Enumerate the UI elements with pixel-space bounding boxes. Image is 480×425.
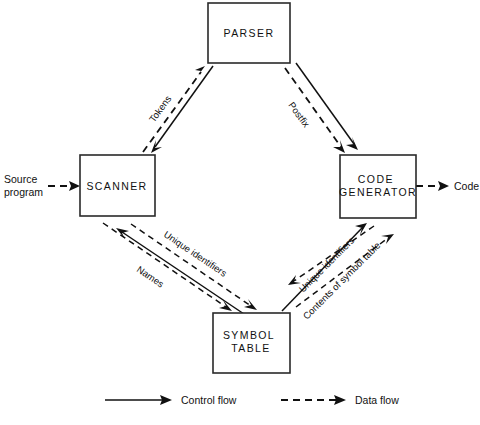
edge-source-program-to-scanner	[48, 181, 80, 191]
node-scanner[interactable]: SCANNER	[80, 155, 155, 216]
svg-text:SYMBOL TABLE: SYMBOL TABLE	[223, 329, 279, 354]
node-code-generator[interactable]: CODE GENERATOR	[339, 155, 417, 218]
legend-control-flow: Control flow	[105, 394, 237, 406]
edge-codegen-to-code-output	[416, 181, 449, 191]
edge-scanner-to-symtab-unique-identifiers	[131, 224, 257, 310]
svg-text:PARSER: PARSER	[224, 27, 275, 39]
edge-label-postfix: Postfix	[286, 100, 312, 130]
edge-label-names: Names	[135, 264, 166, 290]
edge-label-tokens: Tokens	[147, 93, 174, 124]
node-parser[interactable]: PARSER	[208, 3, 290, 63]
svg-text:SCANNER: SCANNER	[86, 180, 147, 192]
edge-label-unique-identifiers-left: Unique identifiers	[162, 229, 229, 279]
node-symbol-table[interactable]: SYMBOL TABLE	[213, 313, 290, 373]
legend-data-flow: Data flow	[281, 394, 399, 406]
edge-label-unique-identifiers-right: Unique identifiers	[297, 235, 357, 295]
edge-parser-to-codegen-control	[296, 63, 358, 150]
compiler-flow-diagram: Tokens Postfix	[0, 0, 480, 425]
svg-text:Control flow: Control flow	[181, 394, 237, 406]
diagram-canvas: Tokens Postfix	[0, 0, 480, 425]
code-output-label: Code	[454, 180, 479, 192]
source-program-label: Source program	[4, 173, 43, 198]
svg-text:Data flow: Data flow	[355, 394, 399, 406]
